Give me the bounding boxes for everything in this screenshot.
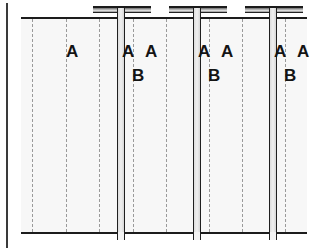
plate-seam <box>305 5 307 17</box>
panel-assembly-drawing: A A A A A A A B B B <box>21 17 307 234</box>
panel-bottom-edge <box>21 232 307 234</box>
panel-centre-line <box>166 19 168 232</box>
callout-rib-b: B <box>284 67 296 84</box>
callout-panel-a: A <box>221 43 233 60</box>
panel-centre-line <box>99 19 101 232</box>
plate-seam <box>243 5 245 17</box>
joint-rib-foot <box>193 232 201 240</box>
callout-panel-a: A <box>198 43 210 60</box>
panel-top-edge <box>21 17 307 19</box>
callout-panel-a: A <box>66 43 78 60</box>
panel-centre-line <box>32 19 34 232</box>
callout-panel-a: A <box>297 43 309 60</box>
joint-rib-foot <box>269 232 277 240</box>
figure-canvas: A A A A A A A B B B <box>0 0 324 251</box>
joint-rib-foot <box>117 232 125 240</box>
callout-rib-b: B <box>208 67 220 84</box>
page-margin-rule <box>6 3 8 248</box>
callout-rib-b: B <box>132 67 144 84</box>
plate-seam <box>167 5 169 17</box>
callout-panel-a: A <box>122 43 134 60</box>
callout-panel-a: A <box>145 43 157 60</box>
plate-seam <box>91 5 93 17</box>
callout-panel-a: A <box>274 43 286 60</box>
panel-fill-region <box>21 17 307 234</box>
panel-centre-line <box>242 19 244 232</box>
